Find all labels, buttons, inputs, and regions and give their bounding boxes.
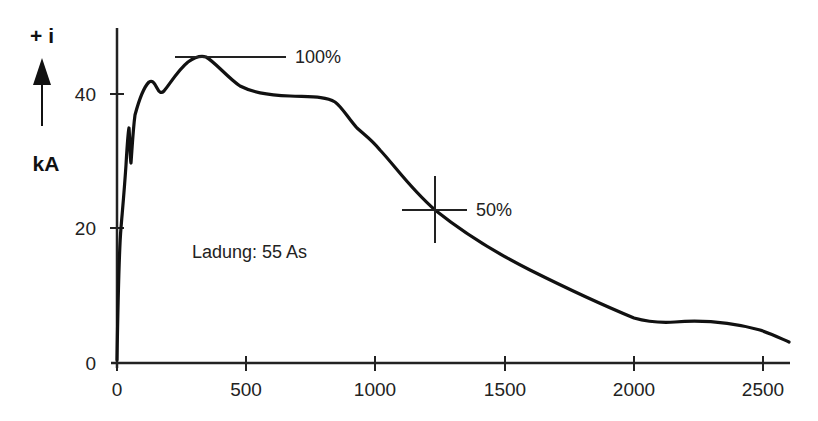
- current-curve: [117, 56, 789, 360]
- chart-canvas: 40 20 0 0 500 1000 1500 2000 2500 + i kA…: [0, 0, 818, 421]
- up-arrow-icon: [33, 58, 51, 126]
- x-tick-label-0: 0: [112, 379, 123, 400]
- y-axis-label-unit: kA: [33, 152, 60, 175]
- y-tick-label-40: 40: [75, 84, 96, 105]
- y-tick-label-0: 0: [85, 353, 96, 374]
- x-tick-label-1000: 1000: [354, 379, 396, 400]
- half-value-label: 50%: [476, 200, 512, 220]
- x-tick-label-1500: 1500: [484, 379, 526, 400]
- peak-label: 100%: [295, 47, 341, 67]
- y-axis-label-symbol: + i: [30, 24, 54, 47]
- x-tick-label-2500: 2500: [742, 379, 784, 400]
- x-tick-label-500: 500: [230, 379, 262, 400]
- x-tick-label-2000: 2000: [613, 379, 655, 400]
- y-tick-label-20: 20: [75, 218, 96, 239]
- charge-label: Ladung: 55 As: [192, 242, 307, 262]
